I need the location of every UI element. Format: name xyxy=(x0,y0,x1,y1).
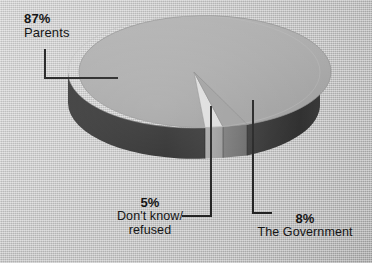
slice-label-government: 8% The Government xyxy=(243,212,367,240)
pie-top-face xyxy=(68,16,331,128)
slice-name-parents: Parents xyxy=(24,26,70,40)
slice-value-parents: 87% xyxy=(24,12,70,26)
slice-wall-dontknow xyxy=(205,127,223,159)
slice-wall-government xyxy=(223,124,247,157)
slice-label-parents: 87% Parents xyxy=(24,12,70,40)
slice-name-government: The Government xyxy=(243,226,367,240)
slice-label-dontknow: 5% Don't know/ refused xyxy=(92,196,208,237)
slice-name-dontknow-line1: Don't know/ xyxy=(92,210,208,224)
slice-value-government: 8% xyxy=(243,212,367,226)
slice-value-dontknow: 5% xyxy=(92,196,208,210)
slice-name-dontknow-line2: refused xyxy=(92,224,208,238)
